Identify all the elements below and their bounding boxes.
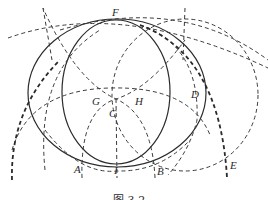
label-I: I — [113, 164, 119, 176]
top-right-dashed-line — [183, 8, 185, 60]
left-thick-dashed-arc — [12, 60, 60, 180]
label-G: G — [92, 95, 100, 107]
center-dashed-arc-right — [43, 8, 155, 178]
geometry-figure: F G H C D A I B E 图 3-2 — [0, 0, 268, 200]
label-A: A — [73, 163, 81, 175]
label-D: D — [190, 88, 199, 100]
top-left-dashed-line — [43, 8, 52, 60]
label-C: C — [109, 107, 117, 119]
label-E: E — [229, 159, 237, 171]
label-F: F — [111, 6, 119, 18]
label-B: B — [157, 165, 164, 177]
top-second-dashed-arc — [60, 18, 268, 60]
right-inner-dashed-arc — [140, 25, 197, 175]
figure-caption: 图 3-2 — [113, 194, 145, 200]
label-H: H — [134, 95, 144, 107]
right-dashed-circle — [112, 19, 258, 171]
